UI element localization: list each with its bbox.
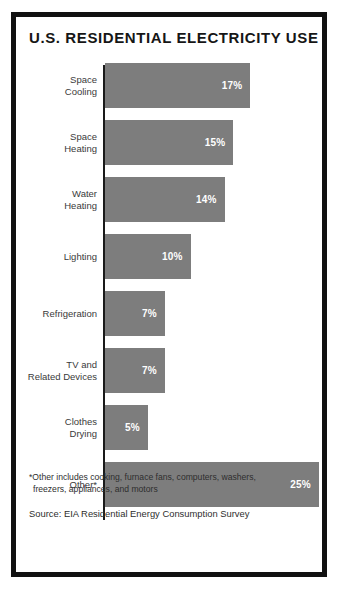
bar-row: SpaceHeating15%	[16, 120, 322, 165]
bar-category-label-line-1: Lighting	[64, 251, 97, 263]
bar-value-label: 17%	[222, 80, 243, 91]
bar-category-label-line-2: Drying	[65, 428, 97, 440]
source-line: Source: EIA Residential Energy Consumpti…	[29, 508, 314, 520]
poster-frame: U.S. RESIDENTIAL ELECTRICITY USE SpaceCo…	[11, 12, 327, 577]
bar: 10%	[105, 234, 191, 279]
bar-row: Refrigeration7%	[16, 291, 322, 336]
bar-category-label: TV andRelated Devices	[16, 348, 97, 393]
poster-inner: U.S. RESIDENTIAL ELECTRICITY USE SpaceCo…	[16, 17, 322, 572]
bar: 15%	[105, 120, 233, 165]
bar-value-label: 15%	[205, 137, 226, 148]
bar: 17%	[105, 63, 250, 108]
bar-category-label: SpaceCooling	[16, 63, 97, 108]
bar-value-label: 5%	[125, 422, 140, 433]
bar-value-label: 7%	[142, 365, 157, 376]
bar-category-label-line-1: Refrigeration	[43, 308, 97, 320]
bar-category-label: Lighting	[16, 234, 97, 279]
bar-category-label-line-1: Water	[64, 188, 97, 200]
bar-category-label-line-2: Related Devices	[28, 371, 97, 383]
footnote: *Other includes cooking, furnace fans, c…	[29, 472, 314, 495]
bar-value-label: 14%	[196, 194, 217, 205]
bar-category-label: ClothesDrying	[16, 405, 97, 450]
footnote-line-1: *Other includes cooking, furnace fans, c…	[29, 472, 314, 484]
bar-chart: SpaceCooling17%SpaceHeating15%WaterHeati…	[16, 63, 322, 525]
bar-category-label-line-1: TV and	[28, 359, 97, 371]
bar-row: TV andRelated Devices7%	[16, 348, 322, 393]
bar-value-label: 10%	[162, 251, 183, 262]
bar-category-label-line-1: Space	[65, 74, 97, 86]
bar-row: WaterHeating14%	[16, 177, 322, 222]
bar-category-label-line-2: Cooling	[65, 86, 97, 98]
bar-row: SpaceCooling17%	[16, 63, 322, 108]
bar: 7%	[105, 348, 165, 393]
bar-category-label-line-2: Heating	[64, 200, 97, 212]
bar-category-label: WaterHeating	[16, 177, 97, 222]
page-title: U.S. RESIDENTIAL ELECTRICITY USE	[29, 29, 314, 46]
bar-category-label-line-2: Heating	[64, 143, 97, 155]
footnote-line-2: freezers, appliances, and motors	[29, 484, 314, 496]
bar-value-label: 7%	[142, 308, 157, 319]
bar: 14%	[105, 177, 225, 222]
bar-row: ClothesDrying5%	[16, 405, 322, 450]
bar-category-label: Refrigeration	[16, 291, 97, 336]
bar: 5%	[105, 405, 148, 450]
bar-category-label: SpaceHeating	[16, 120, 97, 165]
bar-category-label-line-1: Space	[64, 131, 97, 143]
bar: 7%	[105, 291, 165, 336]
bar-category-label-line-1: Clothes	[65, 416, 97, 428]
bar-row: Lighting10%	[16, 234, 322, 279]
electricity-use-poster: U.S. RESIDENTIAL ELECTRICITY USE SpaceCo…	[0, 0, 339, 590]
